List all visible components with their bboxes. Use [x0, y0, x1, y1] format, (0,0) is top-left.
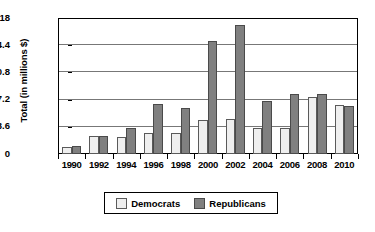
legend-item-democrats: Democrats — [116, 198, 180, 209]
bar-democrats-1996 — [144, 133, 154, 154]
legend-label-democrats: Democrats — [131, 198, 180, 209]
bar-group — [222, 18, 249, 154]
y-axis-title: Total (in millions $) — [18, 11, 29, 151]
bar-republicans-1996 — [153, 104, 163, 154]
x-axis-tick-mark — [358, 154, 359, 159]
bar-group — [331, 18, 358, 154]
y-axis-tick-label: 0 — [5, 148, 10, 159]
y-axis-tick-label: 3.6 — [0, 120, 10, 131]
bar-groups — [58, 18, 358, 154]
bar-group — [58, 18, 85, 154]
bar-democrats-1994 — [117, 137, 127, 154]
bar-democrats-1990 — [62, 147, 72, 154]
bar-republicans-2002 — [235, 25, 245, 154]
bar-republicans-2008 — [317, 94, 327, 154]
bar-republicans-2006 — [290, 94, 300, 154]
bar-democrats-2010 — [335, 105, 345, 154]
bar-republicans-2010 — [344, 106, 354, 154]
bar-chart: Total (in millions $) 03.67.210.814.418 … — [0, 0, 375, 232]
bar-democrats-1998 — [171, 133, 181, 154]
y-axis-tick-label: 18 — [0, 12, 10, 23]
y-axis-tick-label: 7.2 — [0, 93, 10, 104]
x-axis-labels: 1990199219941996199820002002200420062008… — [58, 159, 358, 173]
y-axis-tick-label: 14.4 — [0, 39, 10, 50]
y-axis-tick-label: 10.8 — [0, 66, 10, 77]
bar-group — [276, 18, 303, 154]
legend-swatch-republicans — [194, 198, 205, 209]
x-axis-label-1996: 1996 — [140, 159, 167, 173]
bar-democrats-2000 — [198, 120, 208, 154]
bar-group — [303, 18, 330, 154]
x-axis-label-2004: 2004 — [249, 159, 276, 173]
legend-item-republicans: Republicans — [194, 198, 266, 209]
x-axis-label-1998: 1998 — [167, 159, 194, 173]
x-axis-label-2000: 2000 — [194, 159, 221, 173]
x-axis-label-2010: 2010 — [331, 159, 358, 173]
bar-democrats-1992 — [89, 136, 99, 154]
chart-legend: Democrats Republicans — [104, 192, 278, 214]
x-axis-label-1990: 1990 — [58, 159, 85, 173]
x-axis-label-2002: 2002 — [222, 159, 249, 173]
bar-group — [113, 18, 140, 154]
legend-label-republicans: Republicans — [209, 198, 266, 209]
bar-republicans-1992 — [99, 136, 109, 154]
bar-group — [85, 18, 112, 154]
x-axis-label-1992: 1992 — [85, 159, 112, 173]
bar-democrats-2004 — [253, 128, 263, 154]
bar-democrats-2008 — [308, 97, 318, 154]
bar-republicans-2004 — [262, 101, 272, 154]
bar-group — [194, 18, 221, 154]
bar-group — [167, 18, 194, 154]
bar-republicans-1998 — [181, 108, 191, 154]
bar-group — [249, 18, 276, 154]
bar-republicans-1994 — [126, 128, 136, 154]
x-axis-label-2008: 2008 — [303, 159, 330, 173]
x-axis-label-1994: 1994 — [113, 159, 140, 173]
legend-swatch-democrats — [116, 198, 127, 209]
bar-group — [140, 18, 167, 154]
bar-democrats-2002 — [226, 119, 236, 154]
x-axis-label-2006: 2006 — [276, 159, 303, 173]
bar-republicans-2000 — [208, 41, 218, 154]
bar-republicans-1990 — [72, 146, 82, 154]
bar-democrats-2006 — [280, 128, 290, 154]
